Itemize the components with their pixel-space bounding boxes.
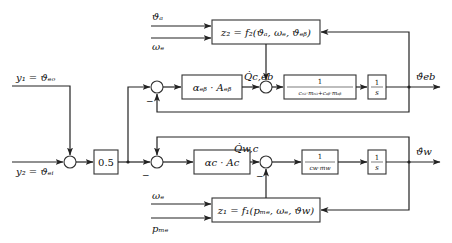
integrator-bottom-num: 1	[375, 154, 379, 162]
omega-e-bottom-label: ωₑ	[152, 190, 164, 201]
block-diagram: ϑₐ ωₑ z₂ = f₂(ϑₐ, ωₑ, ϑₑᵦ) y₁ = ϑₑₒ y₂ =…	[0, 0, 452, 243]
inv-mass-w-denominator: cw·mw	[309, 164, 331, 171]
integrator-bottom-block: 1 s	[368, 150, 386, 174]
upper-minus-sign: −	[146, 96, 154, 106]
y1-label: y₁ = ϑₑₒ	[15, 72, 55, 83]
integrator-top-num: 1	[375, 79, 379, 87]
theta-a-input: ϑₐ	[151, 11, 211, 26]
omega-e-top-input: ωₑ	[151, 38, 211, 52]
theta-eb-output-label: ϑ̂eb	[416, 71, 435, 82]
upper-summing-junction-2	[260, 81, 272, 93]
z2-label: z₂ = f₂(ϑₐ, ωₑ, ϑₑᵦ)	[220, 27, 311, 38]
p-me-label: pₘₑ	[152, 223, 169, 234]
inverse-mass-w-block: 1 cw·mw	[302, 150, 338, 174]
inv-mass-w-numerator: 1	[318, 153, 322, 161]
inv-mass-eb-denominator: cₒᵢₗ·mₒᵢₗ+cₑᵦ·mₑᵦ	[299, 90, 342, 96]
alpha-eb-block: αₑᵦ · Aₑᵦ	[182, 75, 242, 99]
lower-summing-junction-2	[260, 156, 272, 168]
integrator-top-den: s	[375, 89, 379, 97]
theta-a-label: ϑₐ	[152, 11, 163, 22]
y2-input: y₂ = ϑₑᵢ	[12, 162, 63, 177]
gain-label: 0.5	[98, 157, 114, 168]
inv-mass-eb-numerator: 1	[318, 78, 322, 86]
p-me-input: pₘₑ	[151, 218, 211, 234]
lower-summing-junction-1	[151, 156, 163, 168]
y1-input: y₁ = ϑₑₒ	[12, 72, 70, 155]
z1-label: z₁ = f₁(pₘₑ, ωₑ, ϑw)	[217, 205, 314, 216]
q-w-c-label: Q̇w,c	[234, 143, 259, 154]
alpha-c-label: αc · Ac	[205, 157, 240, 168]
z1-block: z₁ = f₁(pₘₑ, ωₑ, ϑw)	[212, 198, 320, 222]
integrator-bottom-den: s	[375, 164, 379, 172]
gain-block: 0.5	[94, 150, 118, 174]
input-summing-junction	[64, 156, 76, 168]
theta-w-output-label: ϑ̂w	[416, 146, 432, 157]
lower-minus-sign: −	[142, 170, 150, 180]
omega-e-bottom-input: ωₑ	[151, 190, 211, 204]
inverse-mass-eb-block: 1 cₒᵢₗ·mₒᵢₗ+cₑᵦ·mₑᵦ	[284, 75, 356, 99]
z2-block: z₂ = f₂(ϑₐ, ωₑ, ϑₑᵦ)	[212, 20, 320, 44]
integrator-top-block: 1 s	[368, 75, 386, 99]
y2-label: y₂ = ϑₑᵢ	[15, 166, 53, 177]
alpha-eb-label: αₑᵦ · Aₑᵦ	[193, 82, 232, 93]
upper-summing-junction-1	[151, 81, 163, 93]
omega-e-top-label: ωₑ	[152, 41, 164, 52]
q-c-eb-label: Q̇c,eb	[244, 71, 273, 82]
lower-z1-minus-sign: −	[256, 171, 264, 181]
